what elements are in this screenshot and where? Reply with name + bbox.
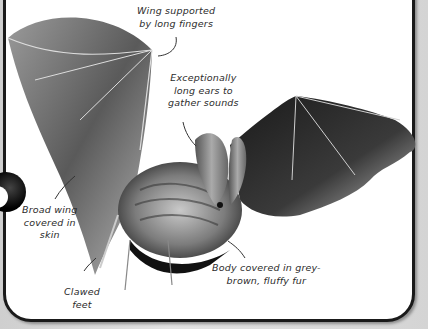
right-wing bbox=[230, 96, 415, 217]
label-body-fur: Body covered in grey- brown, fluffy fur bbox=[212, 262, 321, 287]
eye bbox=[217, 202, 223, 208]
label-broad-wing: Broad wing covered in skin bbox=[22, 204, 78, 242]
label-wing-fingers: Wing supported by long fingers bbox=[137, 5, 215, 30]
label-ears: Exceptionally long ears to gather sounds bbox=[168, 72, 239, 110]
label-feet: Clawed feet bbox=[64, 286, 100, 311]
